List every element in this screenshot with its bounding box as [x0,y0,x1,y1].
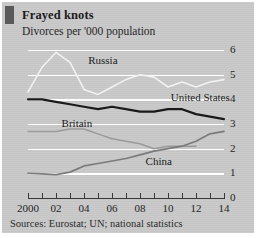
x-tick-2013 [210,193,211,198]
x-tick-2001 [42,193,43,198]
series-line-china [28,131,224,174]
x-tick-label-08: 08 [135,202,146,214]
economist-chart-figure: Frayed knots Divorces per '000 populatio… [0,0,260,238]
series-lines [28,50,224,198]
x-tick-label-14: 14 [219,202,230,214]
economist-tab-mark-icon [5,6,14,24]
series-label-united-states: United States [171,91,230,103]
series-line-britain [28,129,196,149]
plot-area [28,50,224,198]
y-tick-label-3: 3 [230,118,246,129]
y-tick-label-5: 5 [230,69,246,80]
series-label-britain: Britain [62,117,93,129]
x-tick-label-12: 12 [191,202,202,214]
y-tick-label-2: 2 [230,143,246,154]
x-tick-2004 [84,193,85,198]
x-tick-label-10: 10 [163,202,174,214]
chart-title: Frayed knots [22,8,94,23]
x-tick-label-04: 04 [79,202,90,214]
x-tick-label-02: 02 [51,202,62,214]
x-tick-2006 [112,193,113,198]
series-line-russia [28,52,224,94]
x-tick-2002 [56,193,57,198]
x-tick-label-06: 06 [107,202,118,214]
x-tick-2000 [28,193,29,198]
x-tick-label-2000: 2000 [17,202,39,214]
x-tick-2009 [154,193,155,198]
y-tick-label-0: 0 [230,192,246,203]
series-label-china: China [146,155,172,167]
chart-sources: Sources: Eurostat; UN; national statisti… [10,218,183,229]
series-label-russia: Russia [88,54,117,66]
x-tick-2012 [196,193,197,198]
x-tick-2007 [126,193,127,198]
x-tick-2011 [182,193,183,198]
x-tick-2014 [224,193,225,198]
x-tick-2008 [140,193,141,198]
y-tick-label-6: 6 [230,44,246,55]
y-tick-label-1: 1 [230,167,246,178]
x-axis-line [28,198,225,199]
x-tick-2005 [98,193,99,198]
x-tick-2010 [168,193,169,198]
x-tick-2003 [70,193,71,198]
y-tick-label-4: 4 [230,93,246,104]
chart-subtitle: Divorces per '000 population [22,25,155,37]
